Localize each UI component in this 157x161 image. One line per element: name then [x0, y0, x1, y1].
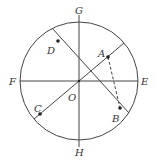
label-O: O: [68, 92, 76, 103]
label-C: C: [34, 103, 42, 114]
geometry-diagram: G H E F O A B C D: [0, 0, 157, 161]
point-D: [56, 39, 60, 43]
label-B: B: [111, 113, 119, 124]
point-A: [106, 55, 110, 59]
point-B: [118, 106, 122, 110]
label-E: E: [140, 76, 149, 87]
point-O: [78, 80, 80, 82]
label-D: D: [46, 45, 55, 56]
label-A: A: [97, 48, 105, 59]
label-G: G: [75, 5, 83, 16]
label-F: F: [8, 76, 17, 87]
line-DB: [52, 28, 129, 113]
label-H: H: [74, 147, 84, 158]
